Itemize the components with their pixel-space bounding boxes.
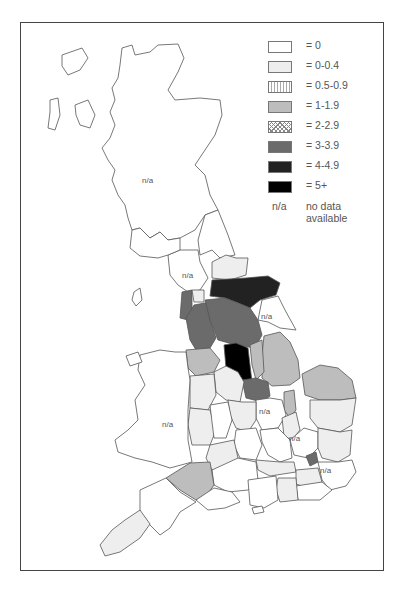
legend-na-key: n/a: [272, 200, 287, 212]
map-label-hertfordshire: n/a: [289, 434, 301, 443]
legend-item-2: = 0.5-0.9: [268, 80, 292, 94]
legend-swatch: [268, 101, 292, 113]
region-norfolk: [302, 365, 356, 400]
legend-label: = 4-4.9: [306, 159, 339, 171]
region-scotland: [102, 44, 222, 240]
legend-item-0: = 0: [268, 40, 292, 54]
map-label-humberside: n/a: [261, 312, 273, 321]
legend-label: = 3-3.9: [306, 139, 339, 151]
legend-item-5: = 3-3.9: [268, 140, 292, 154]
region-lancs-small: [192, 290, 204, 302]
region-hebrides: [62, 48, 88, 75]
legend-item-7: = 5+: [268, 180, 292, 194]
region-nottinghamshire: [250, 340, 264, 380]
legend-swatch: [268, 81, 292, 93]
legend-swatch: [268, 61, 292, 73]
region-oxfordshire: [234, 428, 262, 460]
legend-label: = 1-1.9: [306, 99, 339, 111]
map-label-cumbria: n/a: [182, 271, 194, 280]
region-west-midlands: [210, 402, 232, 438]
legend-swatch: [268, 41, 292, 53]
legend-label: = 0: [306, 39, 321, 51]
legend-label: = 0.5-0.9: [306, 79, 348, 91]
region-wales: [115, 350, 192, 468]
legend-swatch: [268, 161, 292, 173]
legend-swatch: [268, 141, 292, 153]
region-skye: [75, 100, 95, 128]
legend-item-3: = 1-1.9: [268, 100, 292, 114]
legend-na-desc-line2: available: [306, 212, 347, 224]
region-isle-of-man: [132, 288, 142, 306]
region-hampshire: [248, 476, 278, 508]
region-outer-isles: [48, 98, 60, 130]
map-label-kent: n/a: [320, 466, 332, 475]
legend-na-description: no data available: [306, 200, 347, 224]
legend-item-6: = 4-4.9: [268, 160, 292, 174]
map-label-scotland: n/a: [142, 176, 154, 185]
legend-item-4: = 2-2.9: [268, 120, 292, 134]
region-isle-of-wight: [252, 506, 264, 514]
region-essex: [318, 428, 352, 462]
map-label-wales: n/a: [162, 420, 174, 429]
legend-na-desc-line1: no data: [306, 200, 347, 212]
region-berkshire: [256, 460, 296, 476]
legend-label: = 5+: [306, 179, 327, 191]
legend-swatch: [268, 121, 292, 133]
region-suffolk: [310, 398, 356, 432]
region-warwickshire: [228, 400, 256, 432]
region-west-sussex: [276, 478, 298, 502]
legend-label: = 0-0.4: [306, 59, 339, 71]
legend-item-1: = 0-0.4: [268, 60, 292, 74]
legend-label: = 2-2.9: [306, 119, 339, 131]
legend-swatch: [268, 181, 292, 193]
region-lincolnshire: [262, 332, 300, 386]
region-cornwall: [100, 510, 150, 556]
map-label-northamptonshire: n/a: [259, 407, 271, 416]
region-durham: [212, 255, 248, 280]
